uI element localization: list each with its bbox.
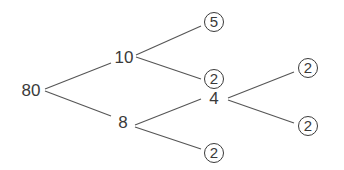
- prime-node-2: 2: [298, 58, 318, 78]
- edge-8-4: [135, 99, 201, 125]
- node-4: 4: [199, 90, 229, 107]
- node-80: 80: [16, 82, 46, 99]
- edge-10-2: [136, 57, 201, 79]
- node-10: 10: [109, 49, 139, 66]
- edge-10-5: [136, 26, 201, 55]
- prime-node-2: 2: [204, 69, 224, 89]
- edge-80-10: [45, 63, 111, 89]
- edge-80-8: [45, 91, 111, 116]
- edge-4-2a: [228, 72, 294, 98]
- prime-node-5: 5: [204, 12, 224, 32]
- edge-4-2b: [228, 100, 294, 123]
- edge-8-2: [135, 127, 201, 149]
- prime-node-2: 2: [298, 116, 318, 136]
- node-8: 8: [108, 114, 138, 131]
- tree-edges: [0, 0, 344, 170]
- prime-node-2: 2: [204, 143, 224, 163]
